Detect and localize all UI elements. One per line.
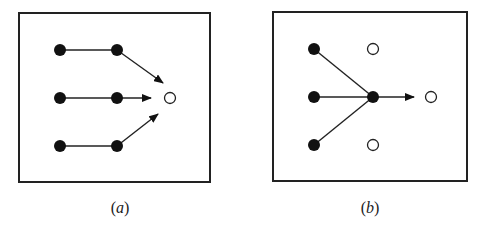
- edge-arrow: [117, 50, 163, 83]
- edge-arrow: [117, 114, 158, 146]
- filled-node: [54, 44, 66, 56]
- diagram-canvas: (a) (b): [0, 0, 489, 228]
- filled-node: [54, 92, 66, 104]
- panel-b-caption: (b): [361, 199, 380, 217]
- panel-b: [273, 12, 467, 181]
- open-node: [426, 92, 437, 103]
- open-node: [368, 44, 379, 55]
- filled-node: [111, 140, 123, 152]
- filled-node: [308, 91, 320, 103]
- filled-node: [111, 44, 123, 56]
- panel-a-caption: (a): [111, 199, 130, 217]
- panel-a: [19, 13, 210, 182]
- filled-node: [111, 92, 123, 104]
- filled-node: [54, 140, 66, 152]
- filled-node: [367, 91, 379, 103]
- edge-line: [314, 97, 373, 145]
- open-node: [368, 140, 379, 151]
- edge-line: [314, 49, 373, 97]
- open-node: [165, 93, 176, 104]
- filled-node: [308, 139, 320, 151]
- filled-node: [308, 43, 320, 55]
